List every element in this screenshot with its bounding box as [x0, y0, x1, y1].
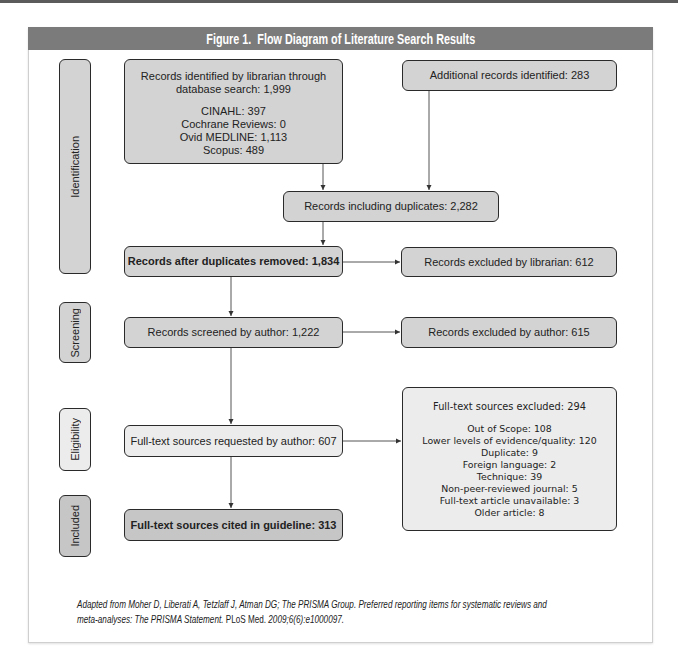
- additional-records-text: Additional records identified: 283: [430, 69, 590, 82]
- exclusion-reason: Technique: 39: [403, 471, 616, 483]
- exclusion-reason: Lower levels of evidence/quality: 120: [403, 435, 616, 447]
- records-excluded-librarian-text: Records excluded by librarian: 612: [424, 256, 593, 269]
- exclusion-reason: Foreign language: 2: [403, 459, 616, 471]
- figure-caption: Adapted from Moher D, Liberati A, Tetzla…: [77, 597, 589, 627]
- box-records-excluded-author: Records excluded by author: 615: [401, 317, 617, 348]
- fulltext-excluded-title: Full-text sources excluded: 294: [403, 401, 616, 413]
- box-fulltext-requested: Full-text sources requested by author: 6…: [124, 425, 343, 457]
- box-records-excluded-librarian: Records excluded by librarian: 612: [401, 247, 617, 277]
- records-identified-line1: Records identified by librarian through: [125, 70, 342, 83]
- box-fulltext-cited: Full-text sources cited in guideline: 31…: [124, 509, 343, 541]
- fulltext-cited-text: Full-text sources cited in guideline: 31…: [131, 519, 337, 532]
- caption-citation: 2009;6(6):e1000097.: [268, 614, 344, 625]
- source-cochrane: Cochrane Reviews: 0: [125, 118, 342, 131]
- source-scopus: Scopus: 489: [125, 144, 342, 157]
- exclusion-reason: Full-text article unavailable: 3: [403, 495, 616, 507]
- exclusion-reason: Non-peer-reviewed journal: 5: [403, 483, 616, 495]
- records-excluded-author-text: Records excluded by author: 615: [428, 326, 589, 339]
- records-after-duplicates-removed-text: Records after duplicates removed: 1,834: [128, 255, 340, 268]
- records-identified-line2: database search: 1,999: [125, 83, 342, 96]
- source-cinahl: CINAHL: 397: [125, 105, 342, 118]
- box-records-after-duplicates-removed: Records after duplicates removed: 1,834: [124, 246, 343, 277]
- box-records-identified: Records identified by librarian through …: [124, 59, 343, 164]
- exclusion-reason: Older article: 8: [403, 507, 616, 519]
- exclusion-reason: Duplicate: 9: [403, 447, 616, 459]
- box-records-screened-author: Records screened by author: 1,222: [124, 317, 343, 348]
- box-fulltext-excluded: Full-text sources excluded: 294 Out of S…: [402, 387, 617, 531]
- caption-statement: meta-analyses: The PRISMA Statement.: [77, 614, 223, 625]
- records-including-duplicates-text: Records including duplicates: 2,282: [304, 200, 478, 213]
- caption-journal: PLoS Med.: [223, 614, 268, 625]
- exclusion-reason: Out of Scope: 108: [403, 423, 616, 435]
- box-records-including-duplicates: Records including duplicates: 2,282: [283, 191, 499, 222]
- records-screened-author-text: Records screened by author: 1,222: [148, 326, 320, 339]
- caption-line1: Adapted from Moher D, Liberati A, Tetzla…: [77, 597, 589, 612]
- box-additional-records: Additional records identified: 283: [402, 60, 617, 91]
- caption-line2: meta-analyses: The PRISMA Statement. PLo…: [77, 612, 589, 627]
- source-medline: Ovid MEDLINE: 1,113: [125, 131, 342, 144]
- fulltext-requested-text: Full-text sources requested by author: 6…: [130, 435, 336, 448]
